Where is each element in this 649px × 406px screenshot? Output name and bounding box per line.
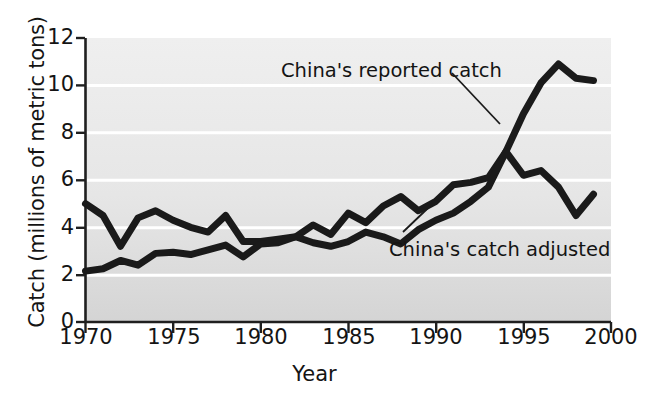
annotation-china-catch-adjusted: China's catch adjusted [389, 240, 610, 260]
x-axis-title-text: Year [292, 362, 336, 386]
annotation-china-reported-catch: China's reported catch [281, 61, 502, 81]
x-tick-label-1990: 1990 [396, 327, 476, 348]
x-tick-label-2000: 2000 [571, 327, 649, 348]
x-tick-label-1985: 1985 [309, 327, 389, 348]
x-tick-label-1995: 1995 [484, 327, 564, 348]
x-tick-label-1970: 1970 [46, 327, 126, 348]
x-axis-title: Year [0, 362, 649, 386]
x-tick-label-1975: 1975 [134, 327, 214, 348]
y-axis-ticks [76, 38, 85, 322]
chart-figure: 12 10 8 6 4 2 0 1970 1975 1980 1985 1990… [0, 0, 649, 406]
x-tick-label-1980: 1980 [221, 327, 301, 348]
y-axis-title: Catch (millions of metric tons) [25, 12, 49, 332]
